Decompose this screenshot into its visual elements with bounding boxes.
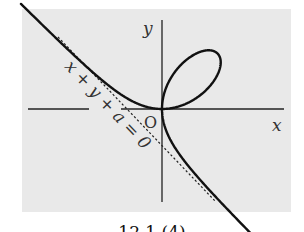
folium-diagram: y x O x + y + a = 0 12.1 (4)	[0, 0, 304, 232]
y-axis-label: y	[142, 18, 153, 38]
figure-caption: 12.1 (4)	[118, 222, 185, 232]
background-panel	[22, 9, 291, 212]
x-axis-label: x	[272, 115, 282, 135]
